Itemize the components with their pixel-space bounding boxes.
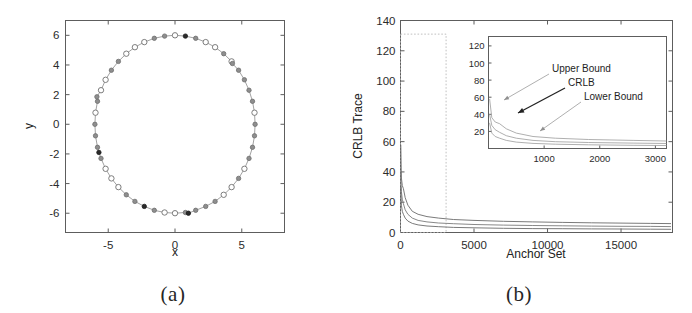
panel-b: 020406080100120140 050001000015000 20406… xyxy=(346,0,692,313)
panel-b-caption: (b) xyxy=(346,282,692,307)
panel-b-y-axis-label: CRLB Trace xyxy=(351,93,365,159)
anchor-marker xyxy=(124,193,128,197)
anchor-marker xyxy=(162,210,167,215)
panel-a-y-axis-label: y xyxy=(22,123,36,129)
y-tick-label: 140 xyxy=(376,15,395,27)
anchor-marker xyxy=(132,45,137,50)
y-tick-label: -6 xyxy=(49,207,59,219)
anchor-marker xyxy=(172,211,177,216)
anchor-marker xyxy=(142,204,146,208)
anchor-marker xyxy=(99,156,103,160)
inset-y-tick-label: 100 xyxy=(469,58,485,69)
anchor-marker xyxy=(252,110,257,115)
anchor-marker xyxy=(109,68,113,72)
inset-x-tick-label: 2000 xyxy=(589,153,610,164)
x-tick-label: 15000 xyxy=(605,239,637,251)
inset-y-tick-label: 60 xyxy=(474,92,485,103)
inset-y-tick-label: 80 xyxy=(474,75,485,86)
anchor-marker xyxy=(242,166,247,171)
inset-x-tick-label: 3000 xyxy=(645,153,666,164)
anchor-marker xyxy=(203,39,208,44)
anchor-marker xyxy=(142,39,147,44)
anchor-marker xyxy=(183,34,187,38)
anchor-marker xyxy=(98,88,103,93)
anchor-marker xyxy=(247,88,251,92)
y-tick-label: 120 xyxy=(376,45,395,57)
panel-a-axes-frame xyxy=(66,21,285,233)
panel-a-y-ticks: -6-4-20246 xyxy=(49,29,284,219)
anchor-marker xyxy=(109,176,114,181)
panel-a: -6-4-20246 -505 x y (a) xyxy=(0,0,346,313)
y-tick-label: 40 xyxy=(383,166,396,178)
y-tick-label: 0 xyxy=(389,227,395,239)
y-tick-label: -2 xyxy=(49,148,59,160)
anchor-marker xyxy=(230,61,234,65)
anchor-circle-series xyxy=(93,33,258,216)
panel-b-plot: 020406080100120140 050001000015000 20406… xyxy=(346,0,692,268)
anchor-marker xyxy=(133,199,137,203)
anchor-marker xyxy=(252,134,256,138)
anchor-marker xyxy=(116,59,120,63)
inset-y-tick-label: 40 xyxy=(474,109,485,120)
y-tick-label: 60 xyxy=(383,136,396,148)
y-tick-label: 4 xyxy=(53,59,60,71)
anchor-marker xyxy=(93,134,97,138)
anchor-marker xyxy=(253,122,257,126)
x-tick-label: 5 xyxy=(239,239,245,251)
anchor-marker xyxy=(116,184,121,189)
anchor-marker xyxy=(204,204,208,208)
anchor-marker xyxy=(124,51,129,56)
panel-a-x-axis-label: x xyxy=(172,245,178,259)
anchor-marker xyxy=(212,45,217,50)
anchor-marker xyxy=(194,208,198,212)
inset-x-tick-label: 1000 xyxy=(534,153,555,164)
inset-annotation-label: CRLB xyxy=(568,77,595,88)
anchor-marker xyxy=(221,192,226,197)
anchor-marker xyxy=(95,145,99,149)
anchor-marker xyxy=(194,36,198,40)
y-tick-label: -4 xyxy=(49,178,60,190)
anchor-marker xyxy=(152,208,156,212)
anchor-marker xyxy=(93,110,98,115)
anchor-marker xyxy=(250,99,254,103)
figure-container: -6-4-20246 -505 x y (a) 0204060801001201… xyxy=(0,0,692,313)
anchor-marker xyxy=(242,78,246,82)
inset-annotation-label: Lower Bound xyxy=(584,91,643,102)
anchor-marker xyxy=(95,95,99,99)
anchor-marker xyxy=(236,176,240,180)
anchor-marker xyxy=(236,68,240,72)
panel-b-inset: 20406080100120 100020003000 Upper BoundC… xyxy=(469,37,667,164)
inset-y-tick-label: 20 xyxy=(474,126,485,137)
anchor-marker xyxy=(103,166,108,171)
panel-a-caption: (a) xyxy=(0,282,346,307)
anchor-marker xyxy=(93,122,97,126)
x-tick-label: -5 xyxy=(103,239,113,251)
x-tick-label: 0 xyxy=(397,239,403,251)
anchor-marker xyxy=(103,77,108,82)
anchor-marker xyxy=(162,34,166,38)
y-tick-label: 2 xyxy=(53,89,59,101)
panel-b-x-axis-label: Anchor Set xyxy=(506,247,566,261)
anchor-marker xyxy=(172,33,177,38)
anchor-marker xyxy=(213,199,217,203)
y-tick-label: 100 xyxy=(376,75,395,87)
anchor-marker xyxy=(247,156,251,160)
panel-a-plot: -6-4-20246 -505 x y xyxy=(0,0,346,268)
y-tick-label: 80 xyxy=(383,105,396,117)
anchor-marker xyxy=(222,52,226,56)
anchor-marker xyxy=(95,99,99,103)
y-tick-label: 6 xyxy=(53,29,59,41)
anchor-marker xyxy=(152,36,156,40)
anchor-marker xyxy=(229,184,234,189)
inset-y-tick-label: 120 xyxy=(469,40,485,51)
y-tick-label: 0 xyxy=(53,118,59,130)
anchor-marker xyxy=(250,145,254,149)
x-tick-label: 5000 xyxy=(461,239,487,251)
inset-annotation-label: Upper Bound xyxy=(552,63,611,74)
anchor-marker xyxy=(97,150,101,154)
y-tick-label: 20 xyxy=(383,196,396,208)
anchor-marker xyxy=(186,211,190,215)
